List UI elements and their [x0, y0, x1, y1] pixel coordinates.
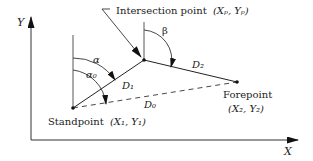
intersection-label: Intersection point — [116, 5, 207, 16]
standpoint-name: Standpoint (X₁, Y₁) — [48, 116, 146, 127]
traverse-diagram: Y X α α₀ β D₁ D₂ D₀ Intersection point (… — [0, 0, 313, 161]
alpha-label: α — [93, 54, 100, 65]
intersection-name: Intersection point (Xₚ, Yₚ) — [116, 5, 249, 16]
d0-label: D₀ — [143, 99, 156, 110]
forepoint-marker — [235, 80, 239, 84]
d1-label: D₁ — [121, 80, 134, 91]
leg-d2 — [144, 60, 237, 82]
d2-label: D₂ — [191, 59, 204, 70]
alpha0-label: α₀ — [86, 69, 97, 80]
forepoint-coords: (X₂, Y₂) — [228, 103, 264, 114]
standpoint-label: Standpoint — [48, 116, 104, 127]
diagram-canvas: Y X α α₀ β D₁ D₂ D₀ Intersection point (… — [0, 0, 313, 161]
x-axis-label: X — [283, 145, 293, 158]
y-axis-label: Y — [17, 16, 26, 29]
intersection-marker — [142, 58, 146, 62]
intersection-leader — [102, 9, 141, 57]
forepoint-label: Forepoint — [223, 89, 272, 100]
beta-label: β — [162, 25, 168, 36]
standpoint-coords: (X₁, Y₁) — [110, 116, 146, 127]
intersection-coords: (Xₚ, Yₚ) — [213, 5, 249, 16]
standpoint-marker — [71, 106, 75, 110]
